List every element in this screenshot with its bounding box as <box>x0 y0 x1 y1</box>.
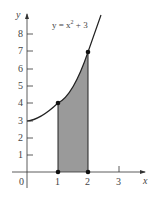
y-axis-label: y <box>16 10 20 20</box>
x-tick-label: 3 <box>116 177 121 187</box>
shaded-region <box>58 52 88 172</box>
y-tick-label: 3 <box>18 116 23 126</box>
y-tick-label: 8 <box>18 29 23 39</box>
equation-label: y = x2 + 3 <box>52 19 88 30</box>
x-axis-label: x <box>143 176 147 186</box>
y-tick-label: 5 <box>18 81 23 91</box>
x-tick-label: 1 <box>55 177 60 187</box>
y-tick-label: 7 <box>18 46 23 56</box>
y-tick-label: 1 <box>18 150 23 160</box>
y-tick-label: 4 <box>18 98 23 108</box>
origin-label: 0 <box>19 177 24 187</box>
y-tick-label: 6 <box>18 64 23 74</box>
y-tick-label: 2 <box>18 133 23 143</box>
x-tick-label: 2 <box>85 177 90 187</box>
